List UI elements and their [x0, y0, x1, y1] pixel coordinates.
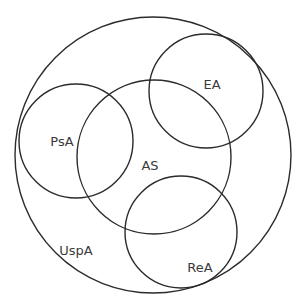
psa-circle — [19, 84, 133, 198]
uspa-label: UspA — [59, 243, 93, 258]
venn-diagram: PsA AS EA UspA ReA — [0, 0, 298, 308]
uspa-circle — [15, 17, 291, 293]
psa-label: PsA — [50, 134, 73, 149]
rea-label: ReA — [187, 260, 212, 275]
as-label: AS — [141, 158, 158, 173]
ea-label: EA — [203, 77, 220, 92]
rea-circle — [125, 176, 237, 288]
